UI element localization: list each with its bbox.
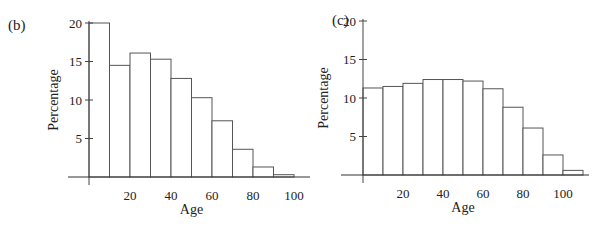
histogram-bar: [233, 149, 254, 177]
x-tick-label: 60: [477, 186, 490, 201]
x-tick-label: 40: [165, 188, 178, 203]
histogram-bar: [403, 83, 423, 175]
histogram-bar: [443, 80, 463, 175]
x-axis-title: Age: [451, 200, 474, 215]
x-tick-label: 20: [397, 186, 410, 201]
y-axis-title: Percentage: [316, 67, 331, 128]
histogram-bar: [463, 81, 483, 175]
histogram-bar: [383, 86, 403, 175]
histogram-bar: [151, 59, 172, 177]
histogram-bar: [503, 107, 523, 175]
x-tick-label: 100: [284, 188, 304, 203]
histogram-bar: [363, 88, 383, 175]
histogram-bar: [171, 78, 192, 177]
y-tick-label: 5: [350, 129, 357, 144]
y-tick-label: 10: [343, 91, 356, 106]
histogram-bar: [192, 98, 213, 177]
x-tick-label: 100: [553, 186, 573, 201]
histogram-panel-c: 510152020406080100AgePercentage(c): [316, 12, 589, 215]
x-tick-label: 80: [247, 188, 260, 203]
x-tick-label: 80: [517, 186, 530, 201]
histogram-bar: [212, 121, 233, 177]
y-tick-label: 5: [76, 131, 83, 146]
histogram-bar: [563, 170, 583, 175]
y-axis-title: Percentage: [46, 69, 61, 130]
histogram-bar: [483, 89, 503, 175]
histogram-bar: [543, 155, 563, 175]
histogram-panel-b: 510152020406080100AgePercentage(b): [8, 16, 310, 218]
histogram-bar: [130, 53, 151, 177]
y-tick-label: 10: [69, 93, 82, 108]
panel-label: (c): [332, 12, 349, 29]
x-tick-label: 20: [124, 188, 137, 203]
x-tick-label: 40: [437, 186, 450, 201]
y-tick-label: 20: [69, 16, 82, 31]
y-tick-label: 15: [69, 54, 82, 69]
histogram-bar: [110, 65, 131, 177]
histogram-bar: [253, 167, 274, 177]
y-tick-label: 15: [343, 52, 356, 67]
panel-label: (b): [8, 17, 26, 34]
histogram-bar: [423, 80, 443, 175]
x-axis-title: Age: [180, 202, 203, 217]
histogram-figure: 510152020406080100AgePercentage(b) 51015…: [0, 0, 614, 229]
x-tick-label: 60: [206, 188, 219, 203]
histogram-bar: [523, 128, 543, 175]
